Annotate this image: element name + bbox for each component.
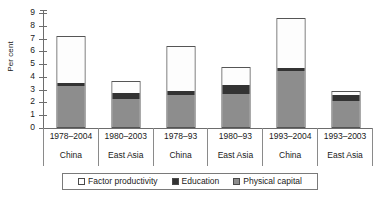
segment-factor-productivity (57, 37, 84, 83)
y-tick-label: 4 (30, 72, 35, 81)
category-axis-labels: 1978–2004China1980–2003East Asia1978–93C… (43, 128, 373, 166)
y-tick-label: 0 (30, 123, 35, 132)
segment-factor-productivity (277, 19, 304, 68)
legend-label: Education (182, 177, 220, 186)
category-region-label: China (169, 151, 191, 160)
y-tick-label: 9 (30, 8, 35, 17)
segment-education (222, 85, 249, 94)
segment-physical-capital (167, 95, 194, 127)
legend-label: Physical capital (243, 177, 302, 186)
y-tick-label: 2 (30, 97, 35, 106)
category-region-label: East Asia (327, 151, 362, 160)
category-cell: 1978–93China (153, 128, 208, 166)
chart-legend: Factor productivity Education Physical c… (62, 173, 318, 190)
category-period-label: 1978–93 (164, 132, 197, 141)
bar-group (43, 13, 373, 128)
stacked-bar[interactable] (276, 18, 305, 128)
stacked-bar[interactable] (331, 91, 360, 128)
segment-factor-productivity (167, 47, 194, 92)
plot-area: 0123456789 (43, 13, 373, 128)
segment-physical-capital (112, 99, 139, 127)
legend-item-factor-productivity: Factor productivity (78, 177, 157, 186)
category-region-label: East Asia (218, 151, 253, 160)
category-period-label: 1978–2004 (50, 132, 93, 141)
y-tick-label: 3 (30, 85, 35, 94)
y-tick-label: 8 (30, 21, 35, 30)
segment-physical-capital (277, 71, 304, 127)
bar-cell (263, 13, 318, 128)
stacked-bar[interactable] (221, 67, 250, 128)
legend-item-education: Education (172, 177, 220, 186)
category-region-label: China (60, 151, 82, 160)
bar-cell (208, 13, 263, 128)
category-region-label: China (279, 151, 301, 160)
y-tick-label: 1 (30, 110, 35, 119)
y-tick-label: 6 (30, 46, 35, 55)
bar-cell (98, 13, 153, 128)
category-cell: 1980–2003East Asia (98, 128, 153, 166)
white-swatch-icon (78, 178, 85, 185)
segment-physical-capital (332, 101, 359, 127)
category-cell: 1980–93East Asia (207, 128, 262, 166)
stacked-bar-chart: Per cent 0123456789 1978–2004China1980–2… (0, 0, 379, 197)
segment-physical-capital (222, 94, 249, 127)
legend-label: Factor productivity (88, 177, 157, 186)
segment-factor-productivity (112, 82, 139, 92)
y-tick-label: 7 (30, 34, 35, 43)
black-swatch-icon (172, 178, 179, 185)
segment-factor-productivity (222, 68, 249, 85)
stacked-bar[interactable] (56, 36, 85, 128)
category-period-label: 1993–2004 (269, 132, 312, 141)
stacked-bar[interactable] (166, 46, 195, 128)
category-region-label: East Asia (108, 151, 143, 160)
y-tick-label: 5 (30, 59, 35, 68)
grey-swatch-icon (233, 178, 240, 185)
y-axis-title: Per cent (6, 27, 15, 87)
bar-cell (43, 13, 98, 128)
category-cell: 1993–2004China (262, 128, 317, 166)
category-period-label: 1980–2003 (104, 132, 147, 141)
category-cell: 1993–2003East Asia (317, 128, 373, 166)
bar-cell (153, 13, 208, 128)
category-cell: 1978–2004China (43, 128, 98, 166)
category-period-label: 1993–2003 (324, 132, 367, 141)
category-period-label: 1980–93 (219, 132, 252, 141)
legend-item-physical-capital: Physical capital (233, 177, 302, 186)
stacked-bar[interactable] (111, 81, 140, 128)
segment-physical-capital (57, 86, 84, 127)
y-axis-cap (40, 10, 47, 11)
bar-cell (318, 13, 373, 128)
